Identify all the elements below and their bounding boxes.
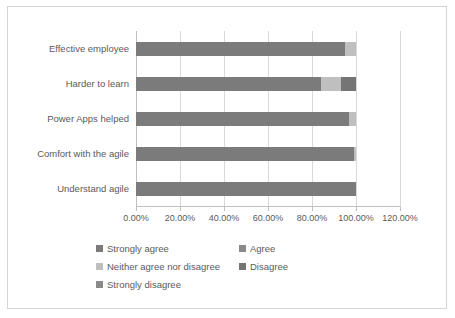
tick-mark (224, 207, 225, 211)
legend-swatch-icon (96, 263, 103, 270)
legend-swatch-icon (96, 245, 103, 252)
bar-segment[interactable] (349, 112, 356, 126)
bar-segment[interactable] (321, 77, 341, 91)
chart-frame: Effective employeeHarder to learnPower A… (7, 6, 447, 309)
legend-label: Neither agree nor disagree (107, 261, 220, 272)
bar-row[interactable]: Power Apps helped (136, 112, 400, 126)
legend-label: Agree (250, 243, 275, 254)
bar-segment[interactable] (136, 42, 345, 56)
legend-item-strongly-disagree[interactable]: Strongly disagree (96, 279, 181, 290)
x-axis-tick-label: 120.00% (382, 213, 418, 223)
x-axis-tick-label: 0.00% (123, 213, 149, 223)
x-axis-tick-label: 20.00% (165, 213, 196, 223)
category-label: Effective employee (49, 42, 129, 56)
legend-item-disagree[interactable]: Disagree (239, 261, 288, 272)
bar-row[interactable]: Harder to learn (136, 77, 400, 91)
legend-label: Strongly disagree (107, 279, 181, 290)
tick-mark (400, 207, 401, 211)
legend-swatch-icon (96, 281, 103, 288)
tick-mark (268, 207, 269, 211)
bar-segment[interactable] (136, 147, 354, 161)
tick-mark (312, 207, 313, 211)
tick-mark (180, 207, 181, 211)
bar-segment[interactable] (354, 147, 356, 161)
legend-swatch-icon (239, 245, 246, 252)
gridline (400, 31, 401, 207)
x-axis-tick-label: 60.00% (253, 213, 284, 223)
legend-label: Strongly agree (107, 243, 169, 254)
legend-row: Strongly disagree (96, 279, 396, 297)
legend-label: Disagree (250, 261, 288, 272)
x-axis-tick-label: 100.00% (338, 213, 374, 223)
bar-segment[interactable] (136, 182, 356, 196)
category-label: Power Apps helped (47, 112, 129, 126)
chart-legend: Strongly agree Agree Neither agree nor d… (96, 243, 396, 297)
bar-segment[interactable] (136, 77, 321, 91)
category-label: Harder to learn (66, 77, 129, 91)
x-axis-tick-label: 40.00% (209, 213, 240, 223)
tick-mark (356, 207, 357, 211)
category-label: Comfort with the agile (37, 147, 129, 161)
legend-item-strongly-agree[interactable]: Strongly agree (96, 243, 169, 254)
legend-item-agree[interactable]: Agree (239, 243, 275, 254)
bar-row[interactable]: Understand agile (136, 182, 400, 196)
legend-row: Neither agree nor disagree Disagree (96, 261, 396, 279)
x-axis-tick-label: 80.00% (297, 213, 328, 223)
bar-segment[interactable] (136, 112, 349, 126)
plot-area: Effective employeeHarder to learnPower A… (136, 31, 400, 207)
category-label: Understand agile (57, 182, 129, 196)
bar-segment[interactable] (345, 42, 356, 56)
legend-swatch-icon (239, 263, 246, 270)
legend-row: Strongly agree Agree (96, 243, 396, 261)
legend-item-neither-agree-nor-disagree[interactable]: Neither agree nor disagree (96, 261, 220, 272)
bar-segment[interactable] (341, 77, 356, 91)
bar-row[interactable]: Effective employee (136, 42, 400, 56)
tick-mark (136, 207, 137, 211)
bar-row[interactable]: Comfort with the agile (136, 147, 400, 161)
